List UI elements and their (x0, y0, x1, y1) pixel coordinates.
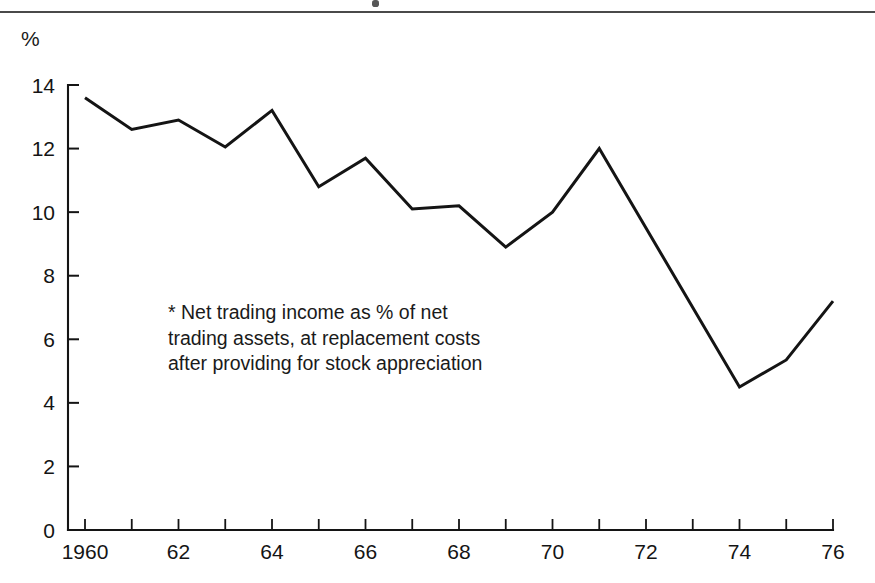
x-tick-label: 68 (447, 540, 470, 563)
y-tick-label: 10 (32, 201, 55, 224)
x-tick-label: 74 (728, 540, 752, 563)
x-tick-label: 66 (354, 540, 377, 563)
x-tick-label: 72 (634, 540, 657, 563)
line-chart-svg: 02468101214 19606264666870727476 (0, 0, 875, 583)
x-tick-label: 76 (821, 540, 844, 563)
x-tick-labels: 19606264666870727476 (62, 540, 845, 563)
chart-page: % 02468101214 19606264666870727476 * Net… (0, 0, 875, 583)
y-tick-label: 2 (43, 455, 55, 478)
x-axis (68, 519, 833, 530)
y-tick-labels: 02468101214 (32, 74, 56, 542)
x-tick-label: 1960 (62, 540, 109, 563)
y-tick-label: 14 (32, 74, 56, 97)
y-tick-label: 8 (43, 264, 55, 287)
y-tick-label: 0 (43, 519, 55, 542)
chart-plot-area: 02468101214 19606264666870727476 (0, 0, 875, 583)
y-axis (68, 85, 79, 530)
x-tick-label: 62 (167, 540, 190, 563)
chart-footnote: * Net trading income as % of net trading… (168, 300, 498, 377)
y-tick-label: 6 (43, 328, 55, 351)
x-tick-label: 70 (541, 540, 564, 563)
y-tick-label: 4 (43, 391, 55, 414)
y-tick-label: 12 (32, 137, 55, 160)
x-tick-label: 64 (260, 540, 284, 563)
